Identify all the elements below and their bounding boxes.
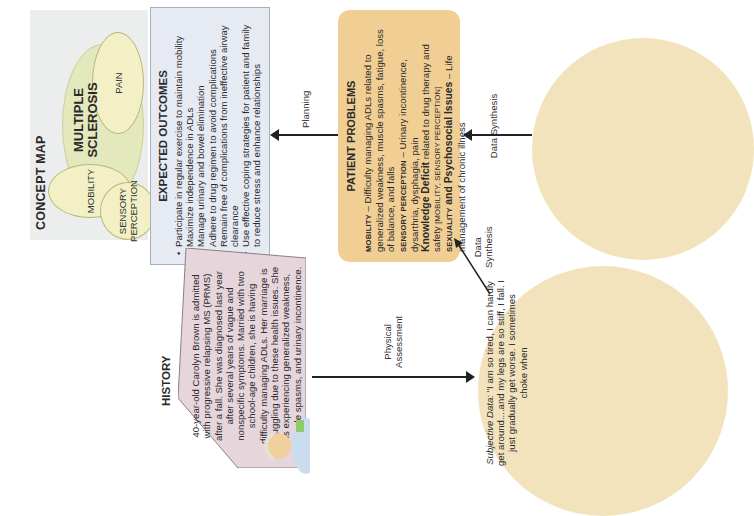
node-sensory-perception: SENSORYPERCEPTION xyxy=(100,182,156,240)
outcome-item: Use effective coping strategies for pati… xyxy=(240,16,262,247)
outcome-item: Remain free of complications from ineffe… xyxy=(218,16,240,247)
data-synthesis-label-2: DataSynthesis xyxy=(472,226,494,268)
outcome-item: Maximize independence in ADLs xyxy=(184,16,195,247)
expected-outcomes-list: Participate in regular exercise to maint… xyxy=(173,16,263,256)
planning-label: Planning xyxy=(300,91,311,128)
patient-problems-title: PATIENT PROBLEMS xyxy=(345,20,357,252)
arrow-head-icon xyxy=(270,129,280,141)
planning-arrow-line xyxy=(276,135,338,137)
arrow-head-icon xyxy=(463,129,473,141)
concept-map-title: CONCEPT MAP xyxy=(34,135,48,230)
data-synthesis-label: Data Synthesis xyxy=(488,76,499,176)
node-sensory-label: SENSORYPERCEPTION xyxy=(117,180,139,242)
outcome-item: Manage urinary and bowel elimination xyxy=(195,16,206,247)
objective-data-circle xyxy=(532,38,754,260)
physical-assessment-label: PhysicalAssessment xyxy=(382,316,404,368)
node-mobility-label: MOBILITY xyxy=(85,169,96,213)
patient-avatar-icon xyxy=(256,414,310,476)
ms-label: MULTIPLESCLEROSIS xyxy=(72,70,100,170)
patient-problems-box: PATIENT PROBLEMS MOBILITY – Difficulty m… xyxy=(338,10,460,262)
expected-outcomes-title: EXPECTED OUTCOMES xyxy=(157,16,169,256)
subjective-data-text: Subjective Data: "I am so tired, I can h… xyxy=(484,280,529,466)
node-pain-label: PAIN xyxy=(113,72,124,93)
arrow-head-icon xyxy=(466,371,476,383)
data-synthesis-arrow-line xyxy=(470,135,532,137)
expected-outcomes-box: EXPECTED OUTCOMES Participate in regular… xyxy=(150,7,270,265)
history-title: HISTORY xyxy=(160,356,172,406)
patient-problems-text: MOBILITY – Difficulty managing ADLs rela… xyxy=(362,20,467,252)
outcome-item: Participate in regular exercise to maint… xyxy=(173,16,184,247)
physical-assessment-arrow-line xyxy=(312,377,472,379)
outcome-item: Adhere to drug regimen to avoid complica… xyxy=(207,16,218,247)
